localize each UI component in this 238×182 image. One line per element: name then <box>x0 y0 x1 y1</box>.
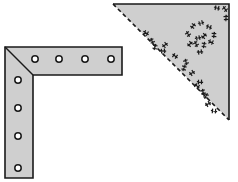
l-bracket <box>5 47 122 178</box>
triangle-gusset <box>113 4 229 120</box>
bolt-hole-icon <box>108 56 114 62</box>
bolt-hole-icon <box>15 133 21 139</box>
bolt-hole-icon <box>15 105 21 111</box>
diagram-canvas <box>0 0 238 182</box>
cross-mark-icon <box>211 108 218 114</box>
l-bracket-body <box>5 47 122 178</box>
bolt-hole-icon <box>56 56 62 62</box>
bolt-hole-icon <box>15 77 21 83</box>
bolt-hole-icon <box>82 56 88 62</box>
bolt-hole-icon <box>15 165 21 171</box>
bolt-hole-icon <box>32 56 38 62</box>
